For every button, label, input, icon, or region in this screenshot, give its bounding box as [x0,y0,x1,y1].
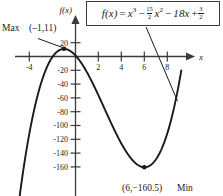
x-tick-label-6: 6 [142,63,146,72]
y-axis-label: f(x) [60,5,73,15]
equation-term1-exponent: 3 [133,7,137,14]
min-label-word: Min [177,183,193,193]
x-tick-label-4: 4 [119,63,123,72]
y-tick-label--100: -100 [53,121,68,130]
equation-minus-1: − [138,8,144,19]
equation-constant-numerator: 3 [198,6,203,13]
equation-term3: 18x [173,8,189,19]
max-label-leader-line [38,39,63,48]
equation-callout-leader-line [146,27,178,101]
y-tick-label--20: -20 [57,66,68,75]
x-axis [15,52,195,60]
x-tick-label--4: -4 [26,63,33,72]
y-tick-label--120: -120 [53,135,68,144]
max-label-point: (–1,11) [29,23,56,34]
y-tick-label-20: 20 [60,39,68,48]
min-label-point: (6,−160.5) [122,183,162,194]
max-label-word: Max [2,23,20,33]
y-tick-label--160: -160 [53,163,68,172]
x-tick-label-2: 2 [96,63,100,72]
equation-coefficient-denominator: 2 [147,13,152,21]
equation-coefficient-fraction: 152 [145,6,154,20]
x-tick-label-8: 8 [165,63,169,72]
equation-arg: (x) [105,8,118,19]
x-axis-label: x [198,52,203,62]
equation-text: f(x)=x3−152x2−18x+32 [102,6,204,20]
equation-callout-box: f(x)=x3−152x2−18x+32 [86,1,220,26]
y-tick-label--40: -40 [57,80,68,89]
y-tick-label--60: -60 [57,94,68,103]
y-tick-label--140: -140 [53,149,68,158]
equation-equals: = [119,8,125,19]
equation-coefficient-numerator: 15 [145,6,154,13]
equation-minus-2: − [165,8,171,19]
equation-term2-exponent: 2 [159,7,163,14]
figure-root: -4 2 4 6 8 20 -20 -40 -60 -80 -100 -120 … [0,0,223,196]
function-graph: -4 2 4 6 8 20 -20 -40 -60 -80 -100 -120 … [0,0,223,196]
equation-constant-fraction: 32 [198,6,203,20]
y-tick-label--80: -80 [57,108,68,117]
equation-constant-denominator: 2 [198,13,203,21]
minimum-point-marker [142,165,147,170]
equation-plus: + [192,8,198,19]
